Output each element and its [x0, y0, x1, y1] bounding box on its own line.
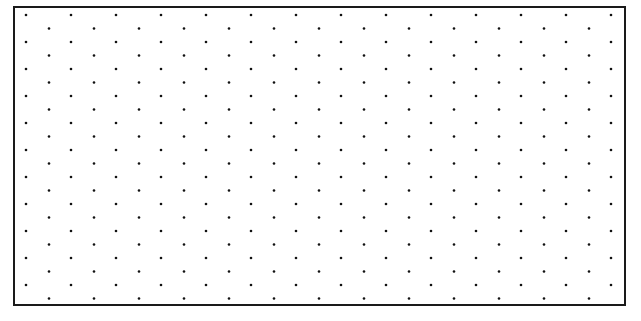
grid-dot: [273, 135, 276, 138]
grid-dot: [295, 230, 298, 233]
grid-dot: [543, 54, 546, 57]
grid-dot: [295, 203, 298, 206]
grid-dot: [70, 41, 73, 44]
grid-dot: [610, 257, 613, 260]
grid-dot: [340, 284, 343, 287]
grid-dot: [160, 176, 163, 179]
grid-dot: [385, 14, 388, 17]
grid-dot: [160, 122, 163, 125]
grid-dot: [48, 189, 51, 192]
grid-dot: [228, 108, 231, 111]
grid-dot: [565, 41, 568, 44]
grid-dot: [115, 203, 118, 206]
grid-dot: [475, 122, 478, 125]
grid-dot: [588, 270, 591, 273]
grid-dot: [228, 27, 231, 30]
grid-dot: [408, 162, 411, 165]
grid-dot: [318, 81, 321, 84]
grid-dot: [453, 243, 456, 246]
grid-dot: [160, 257, 163, 260]
grid-dot: [520, 230, 523, 233]
grid-dot: [475, 203, 478, 206]
grid-dot: [430, 203, 433, 206]
grid-dot: [363, 297, 366, 300]
grid-dot: [475, 41, 478, 44]
grid-dot: [430, 95, 433, 98]
grid-dot: [70, 95, 73, 98]
grid-dot: [115, 257, 118, 260]
grid-dot: [205, 203, 208, 206]
grid-dot: [205, 149, 208, 152]
grid-dot: [115, 284, 118, 287]
grid-dot: [183, 135, 186, 138]
grid-dot: [363, 135, 366, 138]
grid-dot: [25, 41, 28, 44]
grid-dot: [340, 257, 343, 260]
grid-dot: [565, 95, 568, 98]
grid-dot: [183, 81, 186, 84]
grid-dot: [70, 122, 73, 125]
grid-dot: [48, 270, 51, 273]
grid-dot: [70, 176, 73, 179]
grid-dot: [565, 176, 568, 179]
grid-dot: [588, 135, 591, 138]
grid-dot: [295, 149, 298, 152]
grid-dot: [498, 135, 501, 138]
grid-dot: [273, 243, 276, 246]
grid-dot: [385, 95, 388, 98]
grid-dot: [318, 243, 321, 246]
grid-dot: [543, 162, 546, 165]
grid-dot: [408, 216, 411, 219]
grid-dot: [408, 297, 411, 300]
grid-dot: [408, 54, 411, 57]
grid-dot: [498, 270, 501, 273]
grid-dot: [340, 14, 343, 17]
grid-dot: [48, 54, 51, 57]
grid-dot: [453, 216, 456, 219]
grid-dot: [543, 27, 546, 30]
grid-dot: [160, 284, 163, 287]
grid-dot: [453, 108, 456, 111]
grid-dot: [543, 270, 546, 273]
grid-dot: [273, 108, 276, 111]
grid-dot: [385, 122, 388, 125]
grid-dot: [318, 270, 321, 273]
grid-dot: [588, 108, 591, 111]
grid-dot: [363, 189, 366, 192]
grid-dot: [295, 122, 298, 125]
grid-dot: [93, 243, 96, 246]
grid-dot: [610, 176, 613, 179]
grid-dot: [565, 14, 568, 17]
grid-dot: [520, 284, 523, 287]
grid-dot: [340, 176, 343, 179]
grid-dot: [115, 176, 118, 179]
grid-dot: [250, 257, 253, 260]
grid-dot: [340, 95, 343, 98]
grid-dot: [588, 243, 591, 246]
grid-dot: [70, 149, 73, 152]
grid-dot: [610, 14, 613, 17]
grid-dot: [138, 108, 141, 111]
grid-dot: [25, 95, 28, 98]
grid-dot: [183, 270, 186, 273]
grid-dot: [565, 257, 568, 260]
grid-dot: [205, 257, 208, 260]
grid-dot: [205, 68, 208, 71]
grid-dot: [138, 297, 141, 300]
grid-dot: [610, 230, 613, 233]
grid-dot: [48, 243, 51, 246]
grid-dot: [48, 297, 51, 300]
grid-dot: [385, 68, 388, 71]
grid-dot: [250, 203, 253, 206]
grid-dot: [565, 149, 568, 152]
grid-dot: [318, 162, 321, 165]
grid-dot: [385, 176, 388, 179]
grid-dot: [138, 162, 141, 165]
grid-dot: [205, 176, 208, 179]
grid-dot: [475, 68, 478, 71]
grid-dot: [138, 243, 141, 246]
grid-dot: [160, 149, 163, 152]
grid-dot: [228, 189, 231, 192]
grid-dot: [93, 135, 96, 138]
grid-dot: [565, 230, 568, 233]
